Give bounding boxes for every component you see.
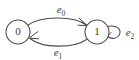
edge-e0-label-subscript: 0 bbox=[62, 9, 66, 18]
edge-e1: e1 bbox=[29, 32, 86, 60]
node-1[interactable]: 1 bbox=[85, 20, 109, 44]
edge-e1-label: e1 bbox=[54, 46, 63, 59]
graph-canvas: e0 e1 e2 0 1 bbox=[0, 0, 139, 59]
node-1-label: 1 bbox=[94, 25, 100, 37]
edge-e2-label-subscript: 2 bbox=[131, 32, 135, 41]
edge-e0-path bbox=[28, 18, 87, 26]
state-transition-diagram: e0 e1 e2 0 1 bbox=[0, 0, 139, 59]
node-0-label: 0 bbox=[15, 25, 21, 37]
edge-e0-arrowhead bbox=[78, 18, 87, 26]
edge-e1-arrowhead bbox=[29, 32, 38, 39]
edge-e1-path bbox=[30, 39, 87, 47]
edge-e1-label-subscript: 1 bbox=[59, 52, 63, 60]
node-0[interactable]: 0 bbox=[6, 20, 30, 44]
edge-e0: e0 bbox=[28, 3, 88, 26]
edge-e2-self-loop: e2 bbox=[106, 26, 135, 41]
edge-e2-label: e2 bbox=[126, 26, 135, 41]
edge-e0-label: e0 bbox=[57, 3, 66, 18]
